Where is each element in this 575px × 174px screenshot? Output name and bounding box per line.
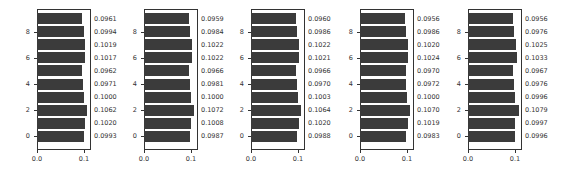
y-tick-label: 8 bbox=[451, 28, 461, 36]
value-label: 0.0971 bbox=[94, 80, 117, 88]
y-tick-label: 6 bbox=[234, 54, 244, 62]
value-label: 0.0993 bbox=[94, 132, 117, 140]
value-label: 0.1008 bbox=[201, 119, 224, 127]
y-tick-mark bbox=[248, 32, 251, 33]
y-tick-mark bbox=[34, 136, 37, 137]
bar bbox=[144, 13, 189, 24]
x-tick-mark bbox=[37, 150, 38, 153]
x-tick-label: 0.1 bbox=[74, 155, 94, 163]
value-label: 0.0996 bbox=[525, 132, 548, 140]
bar bbox=[144, 65, 189, 76]
value-label: 0.1000 bbox=[417, 93, 440, 101]
y-tick-mark bbox=[141, 84, 144, 85]
value-label: 0.0966 bbox=[201, 67, 224, 75]
value-label: 0.0987 bbox=[201, 132, 224, 140]
y-tick-label: 6 bbox=[127, 54, 137, 62]
subplot-panel: 0.09870.10080.10720.10000.09810.09660.10… bbox=[144, 9, 198, 150]
bar bbox=[360, 118, 408, 129]
x-tick-mark bbox=[360, 150, 361, 153]
value-label: 0.0956 bbox=[525, 15, 548, 23]
bar bbox=[468, 13, 513, 24]
subplot-panel: 0.09830.10190.10700.10000.09720.09700.10… bbox=[360, 9, 414, 150]
value-label: 0.0960 bbox=[308, 15, 331, 23]
value-label: 0.1072 bbox=[201, 106, 224, 114]
bar bbox=[468, 92, 515, 103]
y-tick-mark bbox=[248, 58, 251, 59]
x-tick-mark bbox=[84, 150, 85, 153]
bar bbox=[144, 39, 192, 50]
y-tick-label: 2 bbox=[20, 106, 30, 114]
subplot-panel: 0.09930.10200.10620.10000.09710.09620.10… bbox=[37, 9, 91, 150]
y-tick-label: 2 bbox=[343, 106, 353, 114]
y-tick-mark bbox=[34, 110, 37, 111]
value-label: 0.0961 bbox=[94, 15, 117, 23]
y-tick-mark bbox=[357, 58, 360, 59]
y-tick-label: 4 bbox=[234, 80, 244, 88]
value-label: 0.0962 bbox=[94, 67, 117, 75]
value-label: 0.0981 bbox=[201, 80, 224, 88]
y-tick-label: 0 bbox=[234, 132, 244, 140]
value-label: 0.1022 bbox=[201, 54, 224, 62]
value-label: 0.0986 bbox=[308, 28, 331, 36]
y-tick-label: 2 bbox=[127, 106, 137, 114]
bar bbox=[468, 118, 515, 129]
bar bbox=[251, 52, 299, 63]
y-tick-label: 4 bbox=[20, 80, 30, 88]
value-label: 0.1025 bbox=[525, 41, 548, 49]
y-tick-mark bbox=[357, 32, 360, 33]
subplot-panel: 0.09880.10200.10640.10030.09700.09660.10… bbox=[251, 9, 305, 150]
x-tick-label: 0.0 bbox=[458, 155, 478, 163]
y-tick-mark bbox=[141, 58, 144, 59]
bar bbox=[251, 26, 297, 37]
bar bbox=[360, 79, 406, 90]
value-label: 0.1033 bbox=[525, 54, 548, 62]
bar bbox=[37, 52, 85, 63]
value-label: 0.0996 bbox=[525, 93, 548, 101]
bar bbox=[360, 26, 406, 37]
y-tick-label: 2 bbox=[234, 106, 244, 114]
value-label: 0.0970 bbox=[417, 67, 440, 75]
bar bbox=[251, 79, 297, 90]
value-label: 0.1000 bbox=[201, 93, 224, 101]
x-tick-mark bbox=[251, 150, 252, 153]
y-tick-mark bbox=[465, 32, 468, 33]
x-tick-label: 0.1 bbox=[505, 155, 525, 163]
bar bbox=[251, 118, 299, 129]
value-label: 0.0956 bbox=[417, 15, 440, 23]
x-tick-mark bbox=[407, 150, 408, 153]
bar bbox=[468, 65, 513, 76]
bar bbox=[360, 39, 408, 50]
y-tick-label: 4 bbox=[451, 80, 461, 88]
bar bbox=[37, 26, 84, 37]
bar bbox=[37, 79, 83, 90]
bar bbox=[144, 26, 190, 37]
value-label: 0.1079 bbox=[525, 106, 548, 114]
value-label: 0.0959 bbox=[201, 15, 224, 23]
bar bbox=[251, 39, 299, 50]
bar bbox=[468, 105, 519, 116]
bar bbox=[37, 13, 82, 24]
y-tick-label: 8 bbox=[234, 28, 244, 36]
bar bbox=[251, 131, 297, 142]
value-label: 0.0976 bbox=[525, 80, 548, 88]
y-tick-label: 6 bbox=[451, 54, 461, 62]
y-tick-label: 4 bbox=[127, 80, 137, 88]
value-label: 0.1019 bbox=[94, 41, 117, 49]
bar bbox=[360, 92, 407, 103]
y-tick-mark bbox=[465, 136, 468, 137]
x-tick-mark bbox=[515, 150, 516, 153]
value-label: 0.0967 bbox=[525, 67, 548, 75]
value-label: 0.0997 bbox=[525, 119, 548, 127]
value-label: 0.1021 bbox=[308, 54, 331, 62]
value-label: 0.1024 bbox=[417, 54, 440, 62]
bar bbox=[468, 131, 515, 142]
value-label: 0.1070 bbox=[417, 106, 440, 114]
value-label: 0.0970 bbox=[308, 80, 331, 88]
y-tick-label: 6 bbox=[20, 54, 30, 62]
y-tick-label: 6 bbox=[343, 54, 353, 62]
y-tick-label: 0 bbox=[127, 132, 137, 140]
y-tick-mark bbox=[248, 84, 251, 85]
value-label: 0.1019 bbox=[417, 119, 440, 127]
y-tick-mark bbox=[357, 84, 360, 85]
value-label: 0.1020 bbox=[417, 41, 440, 49]
